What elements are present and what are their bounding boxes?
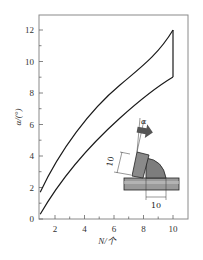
dim-horizontal-label: 10: [151, 201, 161, 210]
y-tick-10: 10: [25, 57, 35, 67]
y-axis-title: α/(°): [13, 109, 23, 126]
x-tick-labels: 2 4 6 8 10: [53, 224, 178, 234]
y-tick-8: 8: [30, 88, 35, 98]
y-tick-2: 2: [30, 183, 35, 193]
alpha-label: α: [141, 117, 147, 126]
x-axis-ticks: [55, 215, 173, 219]
x-tick-2: 2: [53, 224, 58, 234]
y-tick-0: 0: [30, 214, 35, 224]
dim-vertical-label: 10: [105, 156, 116, 168]
x-tick-6: 6: [112, 224, 117, 234]
chart: 0 2 4 6 8 10 12 2 4 6 8 10 N/个 α/(°): [0, 0, 203, 260]
y-tick-12: 12: [25, 25, 34, 35]
x-axis-title: N/个: [97, 236, 117, 246]
plate-highlight: [124, 181, 179, 184]
dim-extension-bottom: [114, 172, 131, 175]
y-tick-4: 4: [30, 151, 35, 161]
y-tick-6: 6: [30, 120, 35, 130]
x-tick-10: 10: [169, 224, 179, 234]
dim-line-vertical: [117, 152, 122, 173]
x-tick-8: 8: [141, 224, 146, 234]
reference-line-vertical: [137, 118, 140, 152]
inset-weld-diagram: α 10 10: [105, 117, 179, 210]
y-tick-labels: 0 2 4 6 8 10 12: [25, 25, 35, 224]
weld-bead: [146, 158, 166, 178]
x-tick-4: 4: [82, 224, 87, 234]
